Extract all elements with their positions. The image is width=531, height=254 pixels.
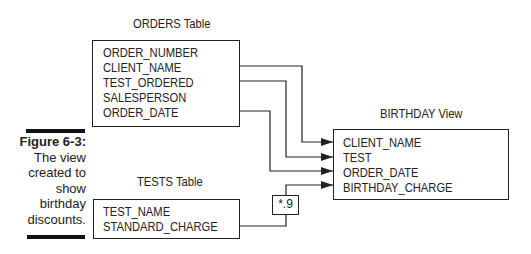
orders-field-salesperson: SALESPERSON	[103, 90, 198, 105]
orders-field-order-number: ORDER_NUMBER	[103, 45, 198, 60]
tests-table-title: TESTS Table	[137, 174, 203, 189]
orders-field-client-name: CLIENT_NAME	[103, 60, 198, 75]
orders-table-title: ORDERS Table	[133, 16, 210, 31]
view-field-order-date: ORDER_DATE	[343, 165, 453, 180]
orders-field-test-ordered: TEST_ORDERED	[103, 75, 198, 90]
view-field-client-name: CLIENT_NAME	[343, 135, 453, 150]
birthday-view-title: BIRTHDAY View	[380, 106, 462, 121]
tests-table-box: TEST_NAME STANDARD_CHARGE	[93, 199, 240, 239]
orders-table-box: ORDER_NUMBER CLIENT_NAME TEST_ORDERED SA…	[92, 40, 240, 127]
birthday-view-box: CLIENT_NAME TEST ORDER_DATE BIRTHDAY_CHA…	[333, 129, 509, 200]
orders-field-order-date: ORDER_DATE	[103, 105, 198, 120]
view-field-test: TEST	[343, 150, 453, 165]
connector-lines	[0, 0, 531, 254]
multiplier-box: *.9	[272, 195, 299, 215]
tests-field-standard-charge: STANDARD_CHARGE	[103, 219, 218, 234]
tests-field-test-name: TEST_NAME	[103, 204, 218, 219]
view-field-birthday-charge: BIRTHDAY_CHARGE	[343, 180, 453, 195]
wire-birthday-charge	[286, 185, 333, 195]
